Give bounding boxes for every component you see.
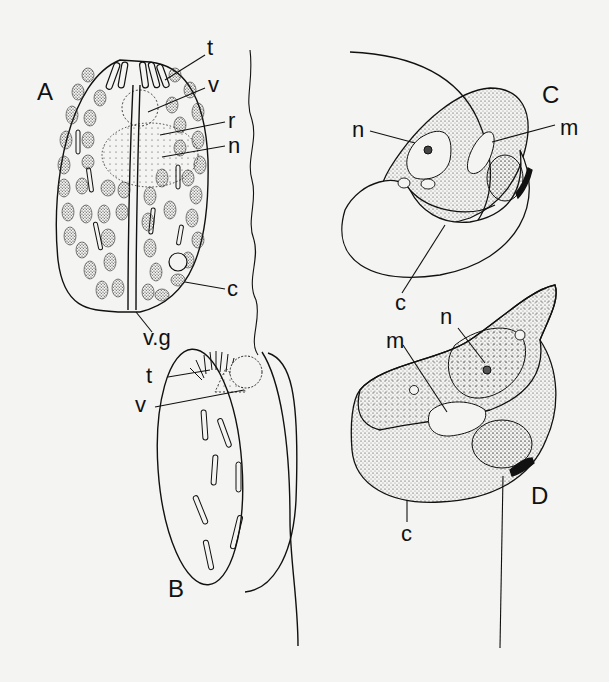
label-c-m: m <box>560 115 578 140</box>
label-c-c: c <box>395 290 406 315</box>
label-d-c: c <box>401 521 412 546</box>
label-a-c: c <box>227 276 238 301</box>
panel-label-a: A <box>37 78 53 105</box>
label-a-vg: v.g <box>143 325 171 350</box>
biology-figure: A t v r n c v.g B t v C n m c D n m c <box>0 0 609 682</box>
panel-label-c: C <box>542 81 559 108</box>
label-d-m: m <box>386 328 404 353</box>
label-d-n: n <box>440 304 452 329</box>
panel-label-b: B <box>168 575 184 602</box>
flagellum-wavy <box>249 50 258 355</box>
panel-a <box>56 55 225 332</box>
label-b-t: t <box>146 363 152 388</box>
label-a-r: r <box>228 108 235 133</box>
panel-label-d: D <box>531 482 548 509</box>
panel-d <box>351 285 556 648</box>
label-a-n: n <box>228 133 240 158</box>
label-a-v: v <box>208 72 219 97</box>
panel-c <box>342 52 555 293</box>
label-a-t: t <box>207 35 213 60</box>
label-c-n: n <box>352 117 364 142</box>
label-b-v: v <box>135 392 146 417</box>
